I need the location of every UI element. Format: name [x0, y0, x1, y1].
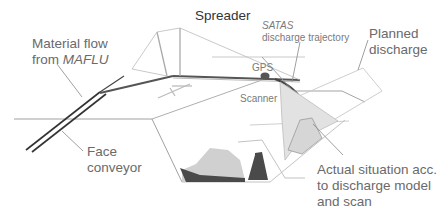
label-material-flow-line2: from MAFLU — [32, 52, 109, 68]
bench-slope-line — [152, 119, 182, 182]
pointer-material-flow — [57, 64, 82, 97]
label-planned-discharge: Planned discharge — [369, 26, 428, 57]
stay-left — [132, 32, 157, 69]
pointer-satas — [292, 42, 300, 82]
mast-left — [157, 32, 167, 76]
mast-top — [157, 28, 180, 32]
label-satas-title: SATAS — [262, 20, 293, 31]
gps-icon — [261, 73, 270, 80]
pile-dark-right — [248, 152, 268, 180]
label-material-flow-line1: Material flow — [32, 36, 109, 52]
label-scanner: Scanner — [240, 93, 277, 105]
label-satas-line2: discharge trajectory — [262, 32, 349, 44]
pointer-planned — [358, 40, 368, 70]
label-actual-situation: Actual situation acc. to discharge model… — [317, 162, 437, 211]
label-gps: GPS — [252, 62, 273, 74]
label-material-flow: Material flow from MAFLU — [32, 36, 109, 67]
face-conveyor-rail-1 — [26, 92, 100, 150]
label-maflu: MAFLU — [63, 52, 109, 67]
label-satas: SATAS discharge trajectory — [262, 20, 349, 43]
pointer-face-conveyor — [62, 131, 83, 151]
label-face-conveyor: Face conveyor — [87, 144, 142, 175]
stay-left-lower — [132, 69, 167, 76]
label-spreader: Spreader — [195, 8, 251, 24]
